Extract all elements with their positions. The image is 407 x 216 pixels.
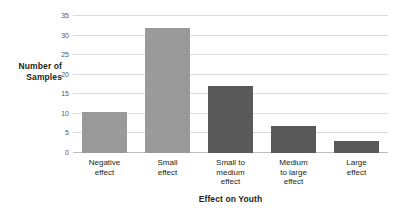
bar (145, 28, 190, 153)
bar (208, 86, 253, 153)
x-axis-category-label-line: effect (263, 177, 324, 187)
y-axis-title-line-2: Samples (6, 72, 62, 83)
x-axis-category-label-line: medium (200, 168, 261, 178)
x-axis-category-label-line: Medium (263, 158, 324, 168)
x-axis-category-label-line: effect (326, 168, 387, 178)
x-axis-category-label-line: effect (200, 177, 261, 187)
x-axis-category-label-line: to large (263, 168, 324, 178)
bar-slot (262, 16, 325, 153)
x-axis-category-label: Negativeeffect (73, 158, 136, 187)
y-axis-tick-label: 30 (61, 31, 69, 38)
bar (271, 126, 316, 153)
bar (82, 112, 127, 153)
plot-area: 05101520253035 (73, 16, 388, 153)
x-axis-category-labels: NegativeeffectSmalleffectSmall tomediume… (73, 158, 388, 187)
x-axis-category-label-line: Small to (200, 158, 261, 168)
x-axis-category-label: Smalleffect (136, 158, 199, 187)
bar-chart: Number of Samples 05101520253035 Negativ… (0, 0, 407, 216)
x-axis-category-label-line: effect (137, 168, 198, 178)
bar-slot (325, 16, 388, 153)
y-axis-tick-label: 0 (65, 149, 69, 156)
bar (334, 141, 379, 153)
bar-slot (199, 16, 262, 153)
y-axis-title-line-1: Number of (6, 61, 62, 72)
x-axis-category-label-line: effect (74, 168, 135, 178)
x-axis-category-label: Small tomediumeffect (199, 158, 262, 187)
x-axis-category-label-line: Small (137, 158, 198, 168)
bar-slot (136, 16, 199, 153)
x-axis-category-label: Largeeffect (325, 158, 388, 187)
y-axis-tick-label: 35 (61, 12, 69, 19)
y-axis-tick-label: 10 (61, 109, 69, 116)
y-axis-title: Number of Samples (6, 61, 62, 82)
x-axis-category-label: Mediumto largeeffect (262, 158, 325, 187)
y-axis-tick-label: 20 (61, 70, 69, 77)
x-axis-category-label-line: Large (326, 158, 387, 168)
bar-series (73, 16, 388, 153)
bar-slot (73, 16, 136, 153)
y-axis-tick-label: 5 (65, 129, 69, 136)
y-axis-tick-label: 25 (61, 51, 69, 58)
x-axis-title: Effect on Youth (73, 194, 388, 204)
y-axis-tick-label: 15 (61, 90, 69, 97)
x-axis-category-label-line: Negative (74, 158, 135, 168)
